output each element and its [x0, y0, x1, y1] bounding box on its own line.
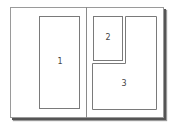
region-3-label: 3: [121, 80, 126, 88]
region-3[interactable]: [0, 0, 173, 129]
